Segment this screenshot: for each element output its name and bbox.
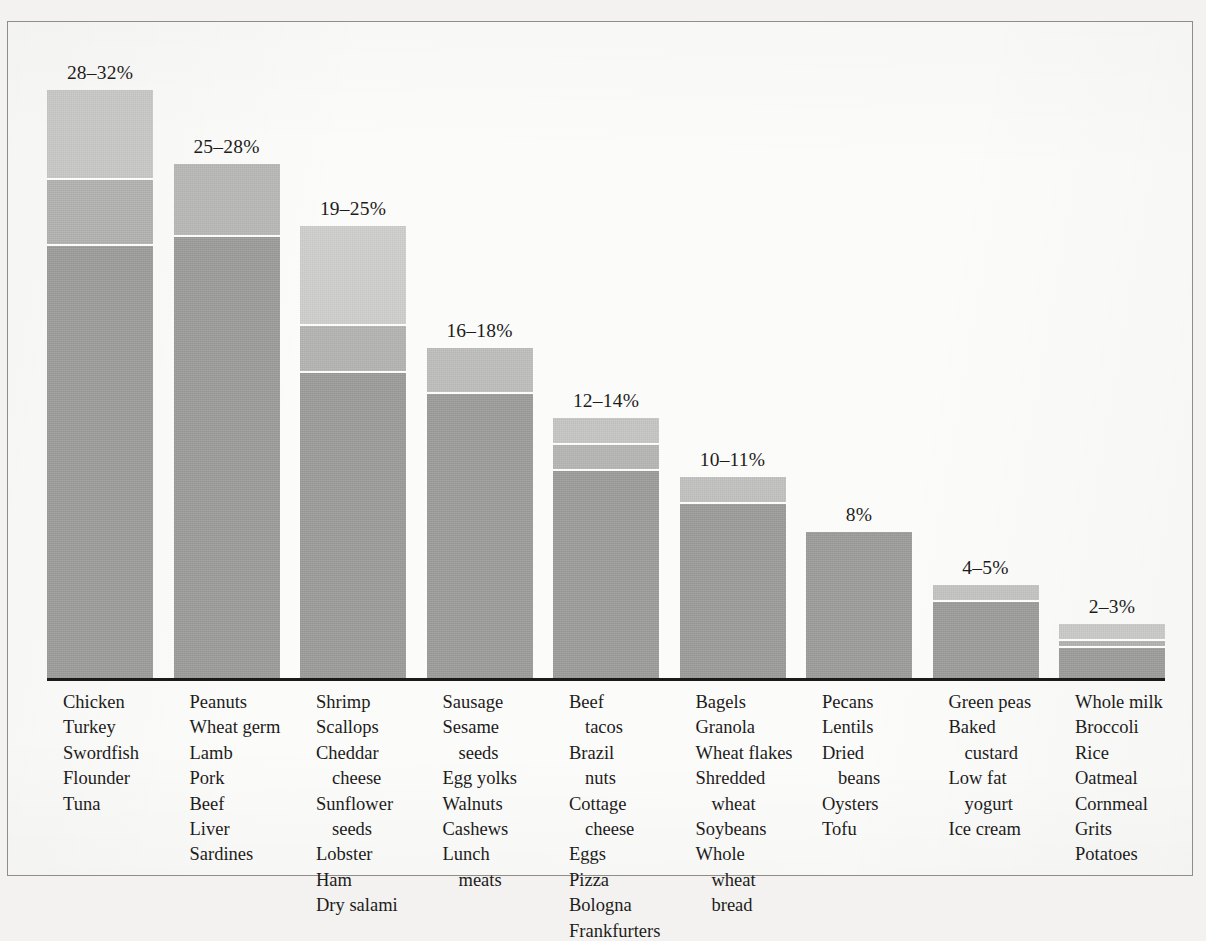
bar-segment <box>300 326 406 374</box>
category-label-column: SausageSesameseedsEgg yolksWalnutsCashew… <box>443 690 560 893</box>
category-label-line: Turkey <box>63 715 180 740</box>
bar-stack[interactable] <box>806 532 912 679</box>
category-label-line: nuts <box>569 766 686 791</box>
category-label-line: Sausage <box>443 690 560 715</box>
category-label-line: bread <box>696 893 813 918</box>
category-label-line: Grits <box>1075 817 1192 842</box>
category-label-line: Walnuts <box>443 792 560 817</box>
bar-column[interactable]: 8% <box>806 36 912 679</box>
category-label-column: PecansLentilsDriedbeansOystersTofu <box>822 690 939 842</box>
bar-segment <box>933 602 1039 679</box>
bar-stack[interactable] <box>47 90 153 679</box>
category-label-column: BeeftacosBrazilnutsCottagecheeseEggsPizz… <box>569 690 686 941</box>
category-label-line: Wheat germ <box>190 715 307 740</box>
x-axis-baseline <box>47 678 1165 681</box>
bar-value-label: 19–25% <box>320 198 386 220</box>
category-label-line: Bologna <box>569 893 686 918</box>
bar-segment <box>553 445 659 471</box>
bar-chart-plot-area: 28–32%25–28%19–25%16–18%12–14%10–11%8%4–… <box>47 36 1165 679</box>
category-label-line: Peanuts <box>190 690 307 715</box>
bar-column[interactable]: 28–32% <box>47 36 153 679</box>
bar-column[interactable]: 10–11% <box>680 36 786 679</box>
category-label-line: Egg yolks <box>443 766 560 791</box>
bar-segment <box>174 164 280 238</box>
category-label-line: Chicken <box>63 690 180 715</box>
category-label-line: cheese <box>569 817 686 842</box>
category-label-line: Baked <box>949 715 1066 740</box>
category-label-line: seeds <box>443 741 560 766</box>
category-label-line: Pork <box>190 766 307 791</box>
category-label-line: Lunch <box>443 842 560 867</box>
bar-column[interactable]: 25–28% <box>174 36 280 679</box>
category-label-line: Cottage <box>569 792 686 817</box>
category-label-line: Shrimp <box>316 690 433 715</box>
category-label-line: Green peas <box>949 690 1066 715</box>
bar-stack[interactable] <box>1059 624 1165 679</box>
category-label-line: Pecans <box>822 690 939 715</box>
category-label-line: Lentils <box>822 715 939 740</box>
bar-value-label: 8% <box>846 504 872 526</box>
bar-column[interactable]: 4–5% <box>933 36 1039 679</box>
bar-segment <box>553 418 659 446</box>
category-label-line: Sardines <box>190 842 307 867</box>
bar-value-label: 12–14% <box>573 390 639 412</box>
bar-stack[interactable] <box>680 477 786 679</box>
category-label-line: Low fat <box>949 766 1066 791</box>
category-label-line: seeds <box>316 817 433 842</box>
category-label-line: Tofu <box>822 817 939 842</box>
bar-stack[interactable] <box>174 164 280 679</box>
category-label-line: Bagels <box>696 690 813 715</box>
bar-segment <box>680 504 786 679</box>
category-label-line: Ice cream <box>949 817 1066 842</box>
bar-column[interactable]: 2–3% <box>1059 36 1165 679</box>
category-label-line: Liver <box>190 817 307 842</box>
bar-value-label: 2–3% <box>1089 596 1135 618</box>
category-label-line: Ham <box>316 868 433 893</box>
bar-stack[interactable] <box>553 418 659 679</box>
category-label-column: ShrimpScallopsCheddarcheeseSunflowerseed… <box>316 690 433 919</box>
category-label-line: Granola <box>696 715 813 740</box>
bar-stack[interactable] <box>300 226 406 679</box>
bar-column[interactable]: 12–14% <box>553 36 659 679</box>
bar-segment <box>427 394 533 679</box>
figure-frame: 28–32%25–28%19–25%16–18%12–14%10–11%8%4–… <box>7 21 1193 876</box>
category-label-column: Green peasBakedcustardLow fatyogurtIce c… <box>949 690 1066 842</box>
bar-value-label: 16–18% <box>446 320 512 342</box>
bar-segment <box>174 237 280 679</box>
bar-segment <box>553 471 659 679</box>
bar-segment <box>427 348 533 394</box>
bar-segment <box>933 585 1039 602</box>
category-label-column: PeanutsWheat germLambPorkBeefLiverSardin… <box>190 690 307 868</box>
category-label-line: wheat <box>696 792 813 817</box>
bar-stack[interactable] <box>427 348 533 679</box>
category-label-line: Frankfurters <box>569 919 686 941</box>
category-label-line: Wheat flakes <box>696 741 813 766</box>
bar-column[interactable]: 16–18% <box>427 36 533 679</box>
category-label-line: Lamb <box>190 741 307 766</box>
category-label-line: Oatmeal <box>1075 766 1192 791</box>
category-label-line: Rice <box>1075 741 1192 766</box>
bar-segment <box>1059 624 1165 641</box>
category-label-line: Shredded <box>696 766 813 791</box>
bar-column[interactable]: 19–25% <box>300 36 406 679</box>
bar-value-label: 4–5% <box>962 557 1008 579</box>
bar-stack[interactable] <box>933 585 1039 679</box>
category-label-line: Soybeans <box>696 817 813 842</box>
bar-segment <box>806 532 912 679</box>
category-label-line: Dry salami <box>316 893 433 918</box>
category-label-line: custard <box>949 741 1066 766</box>
category-label-line: Potatoes <box>1075 842 1192 867</box>
category-label-line: Brazil <box>569 741 686 766</box>
bar-segment <box>47 180 153 246</box>
category-label-line: meats <box>443 868 560 893</box>
bar-segment <box>300 226 406 325</box>
category-label-line: Beef <box>569 690 686 715</box>
category-label-column: Whole milkBroccoliRiceOatmealCornmealGri… <box>1075 690 1192 868</box>
bar-segment <box>680 477 786 505</box>
category-label-line: Cheddar <box>316 741 433 766</box>
category-label-line: Cornmeal <box>1075 792 1192 817</box>
category-label-line: cheese <box>316 766 433 791</box>
bar-value-label: 28–32% <box>67 62 133 84</box>
bar-value-label: 25–28% <box>193 136 259 158</box>
category-label-line: Dried <box>822 741 939 766</box>
